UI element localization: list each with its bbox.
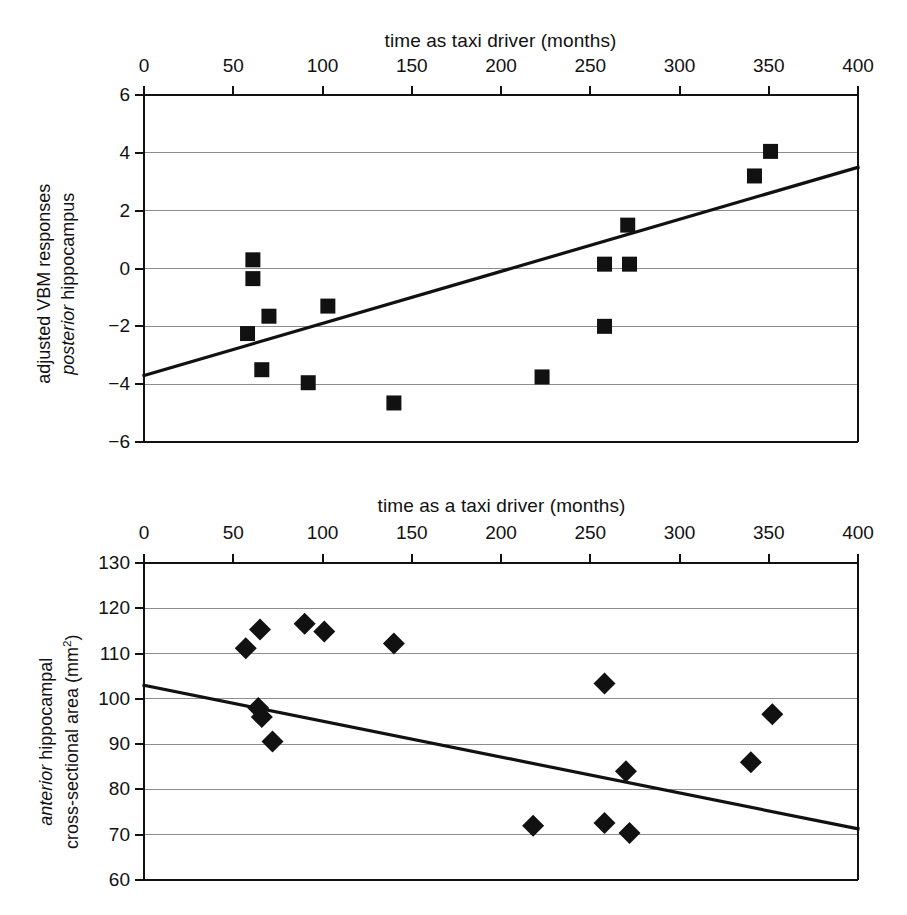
data-point-marker: [522, 815, 544, 837]
data-point-marker: [597, 319, 612, 334]
data-point-marker: [747, 168, 762, 183]
x-tick-label: 400: [842, 55, 874, 77]
y-tick-label: 60: [84, 869, 130, 891]
y-tick-label: 70: [84, 824, 130, 846]
data-point-marker: [740, 751, 762, 773]
y-tick-label: 6: [90, 84, 130, 106]
y-tick-label: −2: [90, 315, 130, 337]
y-tick-label: 100: [84, 688, 130, 710]
y-tick-label: 120: [84, 597, 130, 619]
x-tick-label: 100: [307, 55, 339, 77]
data-point-marker: [245, 271, 260, 286]
data-point-marker: [619, 822, 641, 844]
y-tick-label: 90: [84, 733, 130, 755]
data-point-marker: [249, 619, 271, 641]
x-tick-label: 350: [753, 55, 785, 77]
x-tick-label: 250: [574, 55, 606, 77]
panel-anterior-hippocampus: time as a taxi driver (months) anterior …: [0, 470, 907, 915]
x-tick-label: 150: [396, 55, 428, 77]
y-tick-label: 130: [84, 552, 130, 574]
x-tick-label: 200: [485, 522, 517, 544]
x-tick-label: 150: [396, 522, 428, 544]
data-point-marker: [594, 672, 616, 694]
x-tick-label: 300: [664, 522, 696, 544]
figure-two-scatter-panels: time as taxi driver (months) adjusted VB…: [0, 0, 907, 915]
data-point-marker: [254, 362, 269, 377]
data-point-marker: [235, 637, 257, 659]
data-point-marker: [313, 620, 335, 642]
x-tick-label: 200: [485, 55, 517, 77]
data-point-marker: [383, 633, 405, 655]
x-tick-label: 0: [139, 522, 150, 544]
data-point-marker: [386, 395, 401, 410]
x-tick-label: 0: [139, 55, 150, 77]
data-point-marker: [597, 257, 612, 272]
data-point-marker: [320, 299, 335, 314]
data-point-marker: [620, 218, 635, 233]
data-point-marker: [245, 252, 260, 267]
y-tick-label: 80: [84, 778, 130, 800]
panel-posterior-hippocampus: time as taxi driver (months) adjusted VB…: [0, 0, 907, 470]
data-point-marker: [763, 144, 778, 159]
data-point-marker: [301, 375, 316, 390]
data-point-marker: [240, 326, 255, 341]
x-tick-label: 300: [664, 55, 696, 77]
x-tick-label: 100: [307, 522, 339, 544]
y-tick-label: 110: [84, 643, 130, 665]
x-tick-label: 400: [842, 522, 874, 544]
data-point-marker: [294, 613, 316, 635]
x-tick-label: 250: [574, 522, 606, 544]
y-tick-label: −6: [90, 431, 130, 453]
y-tick-label: −4: [90, 373, 130, 395]
x-tick-label: 50: [223, 522, 244, 544]
data-point-marker: [594, 812, 616, 834]
data-point-marker: [535, 369, 550, 384]
x-tick-label: 350: [753, 522, 785, 544]
data-point-marker: [622, 257, 637, 272]
y-tick-label: 4: [90, 142, 130, 164]
data-point-marker: [261, 309, 276, 324]
y-tick-label: 2: [90, 200, 130, 222]
y-tick-label: 0: [90, 258, 130, 280]
data-point-marker: [262, 730, 284, 752]
data-point-marker: [761, 703, 783, 725]
x-tick-label: 50: [223, 55, 244, 77]
